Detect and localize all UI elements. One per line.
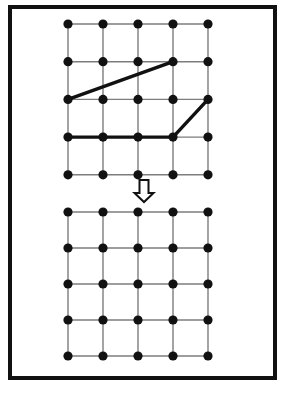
grid-node: [98, 95, 107, 104]
grid-node: [168, 207, 177, 216]
grid-node: [133, 279, 142, 288]
grid-node: [133, 315, 142, 324]
grid-node: [168, 315, 177, 324]
grid-node: [168, 170, 177, 179]
grid-node: [203, 315, 212, 324]
grid-node: [63, 170, 72, 179]
grid-node: [203, 170, 212, 179]
grid-node: [98, 243, 107, 252]
grid-node: [98, 19, 107, 28]
figure-root: [0, 0, 287, 393]
grid-node: [63, 57, 72, 66]
grid-node: [203, 19, 212, 28]
grid-node: [168, 351, 177, 360]
grid-node: [98, 133, 107, 142]
grid-node: [98, 279, 107, 288]
grid-node: [133, 133, 142, 142]
grid-node: [203, 57, 212, 66]
grid-node: [168, 57, 177, 66]
grid-node: [63, 351, 72, 360]
grid-node: [98, 315, 107, 324]
grid-node: [63, 133, 72, 142]
figure-canvas: [0, 0, 287, 393]
grid-node: [133, 207, 142, 216]
grid-node: [168, 133, 177, 142]
grid-node: [63, 95, 72, 104]
grid-node: [203, 243, 212, 252]
grid-node: [133, 170, 142, 179]
grid-node: [133, 95, 142, 104]
grid-node: [98, 170, 107, 179]
grid-node: [98, 207, 107, 216]
grid-node: [133, 351, 142, 360]
grid-node: [203, 133, 212, 142]
grid-node: [168, 95, 177, 104]
grid-node: [133, 57, 142, 66]
grid-node: [63, 279, 72, 288]
grid-node: [203, 207, 212, 216]
grid-node: [168, 243, 177, 252]
grid-node: [63, 19, 72, 28]
grid-node: [203, 95, 212, 104]
grid-node: [203, 351, 212, 360]
grid-node: [133, 243, 142, 252]
grid-node: [133, 19, 142, 28]
grid-node: [168, 19, 177, 28]
grid-node: [98, 57, 107, 66]
grid-node: [63, 243, 72, 252]
grid-node: [203, 279, 212, 288]
grid-node: [63, 315, 72, 324]
grid-node: [63, 207, 72, 216]
grid-node: [98, 351, 107, 360]
grid-node: [168, 279, 177, 288]
